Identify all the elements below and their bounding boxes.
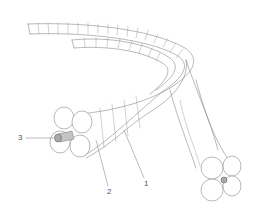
leader-line-2: [96, 140, 108, 186]
label-2: 2: [107, 188, 111, 196]
cable-bundle-diagram: [0, 0, 261, 212]
upper-strand: [28, 23, 194, 94]
right-conductor-ends: [201, 156, 241, 201]
right-bundle: [170, 60, 230, 168]
leader-line-1: [124, 130, 144, 178]
front-bundle: [80, 60, 187, 158]
label-1: 1: [144, 180, 148, 188]
right-core: [221, 177, 227, 183]
label-3: 3: [18, 134, 22, 142]
